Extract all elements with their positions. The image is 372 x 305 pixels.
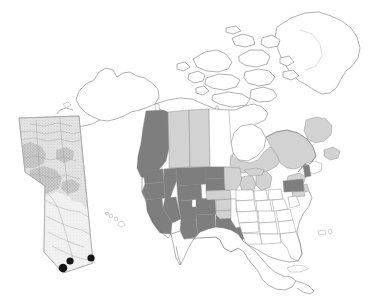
- province-saskatchewan: [189, 109, 210, 167]
- state-montana: [176, 167, 206, 186]
- map-canvas: [0, 0, 372, 305]
- marker-site-3: [87, 254, 94, 261]
- state-washington: [143, 169, 164, 184]
- state-north-dakota: [206, 167, 224, 179]
- map-figure: [0, 0, 372, 305]
- state-wyoming: [177, 184, 202, 201]
- state-south-dakota: [206, 178, 225, 191]
- state-nebraska: [206, 190, 231, 200]
- state-pennsylvania: [283, 179, 304, 192]
- marker-site-1: [59, 264, 68, 273]
- state-oregon: [142, 182, 165, 200]
- province-alberta: [168, 110, 190, 168]
- marker-site-2: [66, 257, 73, 264]
- state-colorado: [196, 198, 216, 215]
- province-manitoba: [209, 109, 233, 167]
